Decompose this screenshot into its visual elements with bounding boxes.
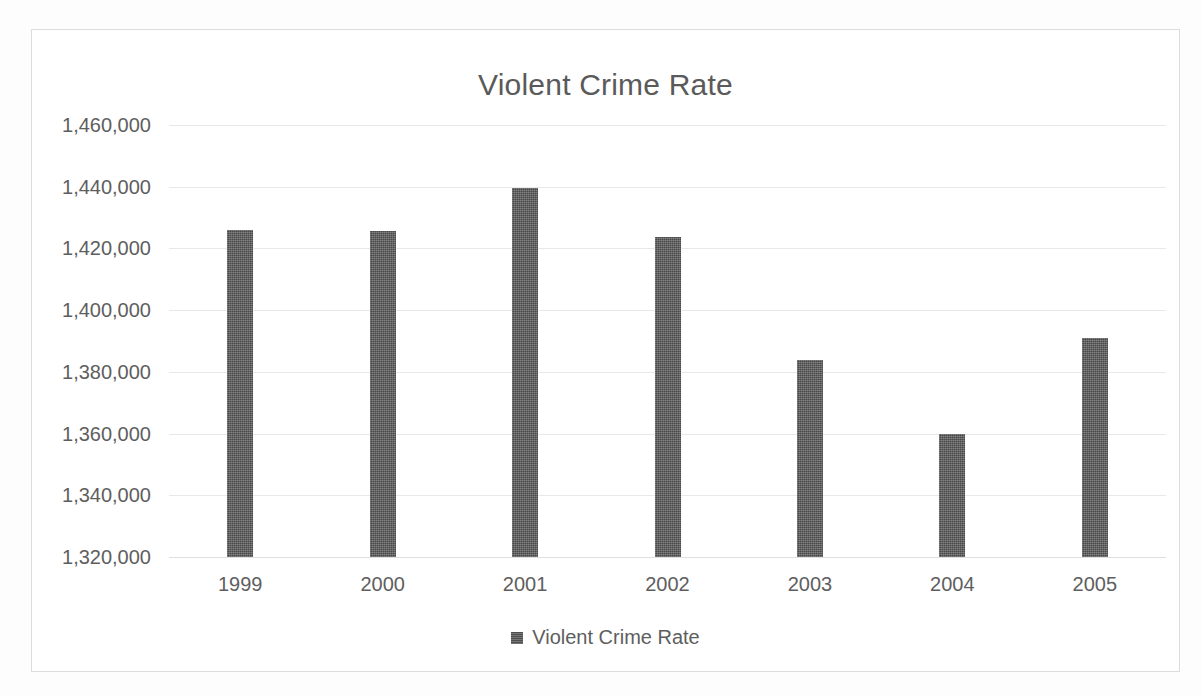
x-axis-tick-label: 2002 [645,573,690,596]
y-axis-tick-label: 1,340,000 [62,484,151,507]
x-axis-tick-label: 2000 [360,573,405,596]
chart-frame: Violent Crime Rate 1,460,0001,440,0001,4… [31,29,1180,672]
x-axis: 1999200020012002200320042005 [169,573,1166,607]
gridline: 1,440,000 [169,187,1166,188]
chart-title: Violent Crime Rate [32,68,1179,102]
y-axis-tick-label: 1,320,000 [62,546,151,569]
y-axis-tick-label: 1,420,000 [62,237,151,260]
chart-legend: Violent Crime Rate [32,626,1179,649]
y-axis-tick-label: 1,460,000 [62,114,151,137]
x-axis-tick-label: 2005 [1073,573,1118,596]
gridline: 1,460,000 [169,125,1166,126]
legend-swatch-icon [511,632,523,644]
x-axis-tick-label: 2004 [930,573,975,596]
y-axis-tick-label: 1,380,000 [62,360,151,383]
bar-2005[interactable] [1082,338,1108,557]
bar-1999[interactable] [227,230,253,557]
bar-2004[interactable] [939,434,965,557]
bar-2002[interactable] [655,237,681,557]
x-axis-tick-label: 1999 [218,573,263,596]
scanned-page: Violent Crime Rate 1,460,0001,440,0001,4… [0,0,1202,696]
bar-2003[interactable] [797,360,823,557]
legend-label: Violent Crime Rate [532,626,699,649]
y-axis-tick-label: 1,440,000 [62,175,151,198]
y-axis-tick-label: 1,360,000 [62,422,151,445]
plot-area: 1,460,0001,440,0001,420,0001,400,0001,38… [169,125,1166,557]
x-axis-tick-label: 2003 [788,573,833,596]
x-axis-tick-label: 2001 [503,573,548,596]
bar-2001[interactable] [512,188,538,557]
gridline: 1,320,000 [169,557,1166,558]
bar-2000[interactable] [370,231,396,557]
y-axis-tick-label: 1,400,000 [62,299,151,322]
